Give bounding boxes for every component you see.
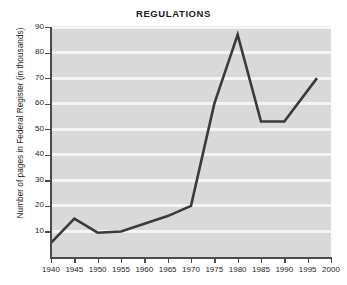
y-axis-tick-label: 30	[4, 175, 44, 184]
data-line-series	[51, 35, 317, 243]
y-axis-tick-label: 50	[4, 124, 44, 133]
y-axis-tick-label: 40	[4, 149, 44, 158]
plot-wrapper	[51, 27, 331, 257]
x-axis-tick	[308, 258, 309, 263]
y-axis-tick-label: 10	[4, 226, 44, 235]
y-axis-tick	[45, 104, 50, 105]
data-line-svg	[51, 27, 331, 257]
x-axis-tick	[51, 258, 52, 263]
x-axis-tick	[214, 258, 215, 263]
x-axis-tick	[261, 258, 262, 263]
y-axis-tick-label: 80	[4, 47, 44, 56]
y-axis-tick-label: 90	[4, 22, 44, 31]
chart-figure: REGULATIONS Number of pages in Federal R…	[0, 0, 347, 285]
x-axis-tick	[191, 258, 192, 263]
x-axis-tick	[168, 258, 169, 263]
x-axis-tick	[98, 258, 99, 263]
chart-title: REGULATIONS	[0, 8, 347, 19]
y-axis-tick	[45, 53, 50, 54]
x-axis-tick	[144, 258, 145, 263]
y-axis-tick	[45, 155, 50, 156]
y-axis-tick-label: 70	[4, 73, 44, 82]
y-axis-tick	[45, 231, 50, 232]
x-axis-tick	[331, 258, 332, 263]
x-axis-tick-label: 2000	[314, 265, 347, 274]
x-axis-tick	[74, 258, 75, 263]
y-axis-tick-label: 20	[4, 200, 44, 209]
y-axis-tick	[45, 129, 50, 130]
y-axis-tick	[45, 78, 50, 79]
x-axis-tick	[238, 258, 239, 263]
x-axis-tick	[121, 258, 122, 263]
y-axis-tick	[45, 27, 50, 28]
y-axis-line	[50, 27, 52, 258]
y-axis-tick	[45, 180, 50, 181]
y-axis-tick	[45, 206, 50, 207]
x-axis-tick	[284, 258, 285, 263]
y-axis-tick-label: 60	[4, 98, 44, 107]
